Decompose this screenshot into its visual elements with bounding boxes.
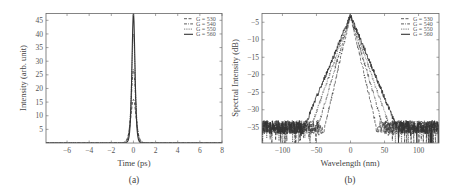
plot-b-ylabel: Spectral Intensity (dB) [230,39,240,117]
y-tick-label: −25 [247,88,259,97]
y-tick-label: 5 [39,125,43,134]
y-tick-label: 40 [36,30,44,39]
x-tick-label: 2 [154,146,158,155]
plot-b-xlabel: Wavelength (nm) [320,158,379,168]
x-tick-label: −50 [311,146,323,155]
x-tick-label: 100 [413,146,425,155]
plot-a-ylabel: Intensity (arb. unit) [18,45,28,111]
y-tick-label: 35 [36,43,44,52]
y-tick-label: 10 [36,111,44,120]
x-tick-label: −6 [63,146,71,155]
plot-b-legend: G = 530G = 540G = 550G = 560 [401,16,433,38]
chart-panel-a: −6−4−20246851015202530354045 G = 530G = … [18,13,224,186]
x-tick-label: 8 [220,146,224,155]
x-tick-label: −2 [107,146,115,155]
y-tick-label: −5 [251,18,259,27]
x-tick-label: 4 [176,146,180,155]
plot-a-panel-label: (a) [129,175,140,186]
x-tick-label: 0 [132,146,136,155]
y-tick-label: 45 [36,16,44,25]
legend-entry: G = 560 [413,31,433,37]
y-tick-label: −35 [247,123,259,132]
x-tick-label: 0 [349,146,353,155]
figure: −6−4−20246851015202530354045 G = 530G = … [0,0,463,194]
y-tick-label: −30 [247,105,259,114]
y-tick-label: 25 [36,70,44,79]
x-tick-label: −4 [85,146,93,155]
y-tick-label: −10 [247,35,259,44]
series-line [46,70,222,143]
y-tick-label: 15 [36,98,44,107]
y-tick-label: 30 [36,57,44,66]
x-tick-label: −100 [275,146,291,155]
y-tick-label: −15 [247,53,259,62]
plot-a-legend: G = 530G = 540G = 550G = 560 [184,16,216,38]
plot-b-panel-label: (b) [344,175,355,186]
x-tick-label: 6 [198,146,202,155]
series-line [46,99,222,143]
x-tick-label: 50 [381,146,389,155]
legend-entry: G = 560 [196,31,216,37]
chart-panel-b: −100−50050100−5−10−15−20−25−30−35 G = 53… [230,13,439,186]
y-tick-label: −20 [247,70,259,79]
y-tick-label: 20 [36,84,44,93]
plot-a-xlabel: Time (ps) [118,158,151,168]
series-line [46,34,222,143]
